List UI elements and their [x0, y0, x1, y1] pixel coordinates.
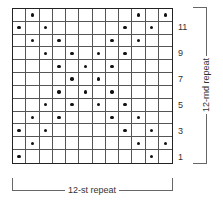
chart-cell	[159, 22, 172, 35]
chart-cell	[13, 99, 26, 112]
dot-icon	[164, 142, 167, 145]
knitting-chart	[12, 8, 173, 164]
chart-cell	[106, 124, 119, 137]
chart-cell	[132, 124, 145, 137]
chart-cell	[119, 99, 132, 112]
chart-cell	[93, 35, 106, 48]
chart-cell	[132, 112, 145, 125]
chart-grid	[12, 8, 173, 164]
dot-icon	[44, 103, 47, 106]
chart-cell	[106, 150, 119, 163]
chart-cell	[132, 60, 145, 73]
chart-cell	[79, 86, 92, 99]
dot-icon	[110, 116, 113, 119]
chart-cell	[146, 9, 159, 22]
chart-cell	[13, 22, 26, 35]
dot-icon	[150, 155, 153, 158]
chart-cell	[79, 112, 92, 125]
chart-cell	[79, 150, 92, 163]
chart-cell	[159, 99, 172, 112]
chart-cell	[132, 47, 145, 60]
chart-cell	[79, 137, 92, 150]
chart-cell	[119, 150, 132, 163]
chart-cell	[13, 137, 26, 150]
dot-icon	[44, 26, 47, 29]
chart-cell	[53, 137, 66, 150]
dot-icon	[150, 129, 153, 132]
chart-cell	[93, 60, 106, 73]
dot-icon	[123, 129, 126, 132]
dot-icon	[57, 65, 60, 68]
chart-cell	[53, 99, 66, 112]
dot-icon	[31, 116, 34, 119]
chart-cell	[53, 112, 66, 125]
chart-cell	[93, 47, 106, 60]
chart-cell	[159, 60, 172, 73]
chart-cell	[119, 9, 132, 22]
chart-cell	[40, 150, 53, 163]
chart-cell	[66, 60, 79, 73]
chart-cell	[26, 137, 39, 150]
chart-cell	[146, 137, 159, 150]
chart-cell	[53, 22, 66, 35]
chart-cell	[146, 112, 159, 125]
dot-icon	[17, 26, 20, 29]
dot-icon	[17, 155, 20, 158]
chart-cell	[26, 22, 39, 35]
dot-icon	[137, 142, 140, 145]
chart-cell	[119, 22, 132, 35]
dot-icon	[97, 103, 100, 106]
chart-cell	[53, 150, 66, 163]
chart-cell	[66, 47, 79, 60]
chart-cell	[119, 35, 132, 48]
chart-cell	[79, 124, 92, 137]
chart-cell	[79, 9, 92, 22]
chart-cell	[159, 137, 172, 150]
chart-cell	[106, 99, 119, 112]
chart-cell	[79, 73, 92, 86]
chart-cell	[40, 35, 53, 48]
chart-cell	[53, 35, 66, 48]
chart-cell	[93, 112, 106, 125]
chart-cell	[119, 60, 132, 73]
chart-cell	[146, 22, 159, 35]
dot-icon	[31, 142, 34, 145]
chart-cell	[53, 73, 66, 86]
dot-icon	[110, 39, 113, 42]
dot-icon	[150, 26, 153, 29]
row-number-7: 7	[178, 74, 183, 84]
row-number-5: 5	[178, 100, 183, 110]
chart-cell	[26, 60, 39, 73]
dot-icon	[17, 129, 20, 132]
chart-cell	[40, 73, 53, 86]
chart-cell	[53, 60, 66, 73]
chart-cell	[26, 73, 39, 86]
chart-cell	[119, 112, 132, 125]
chart-cell	[106, 35, 119, 48]
chart-cell	[119, 73, 132, 86]
chart-cell	[132, 9, 145, 22]
dot-icon	[84, 90, 87, 93]
chart-cell	[26, 124, 39, 137]
chart-cell	[40, 9, 53, 22]
chart-cell	[13, 9, 26, 22]
dot-icon	[137, 39, 140, 42]
dot-icon	[70, 77, 73, 80]
chart-cell	[53, 9, 66, 22]
row-number-9: 9	[178, 48, 183, 58]
dot-icon	[110, 90, 113, 93]
row-number-3: 3	[178, 126, 183, 136]
chart-cell	[40, 47, 53, 60]
chart-cell	[146, 150, 159, 163]
stitch-repeat-label: 12-st repeat	[65, 185, 119, 195]
chart-cell	[132, 35, 145, 48]
chart-cell	[132, 73, 145, 86]
chart-cell	[79, 99, 92, 112]
chart-cell	[159, 124, 172, 137]
chart-cell	[119, 124, 132, 137]
chart-cell	[26, 112, 39, 125]
chart-cell	[13, 124, 26, 137]
chart-cell	[132, 137, 145, 150]
chart-cell	[159, 9, 172, 22]
bracket-right-tick	[172, 178, 173, 191]
